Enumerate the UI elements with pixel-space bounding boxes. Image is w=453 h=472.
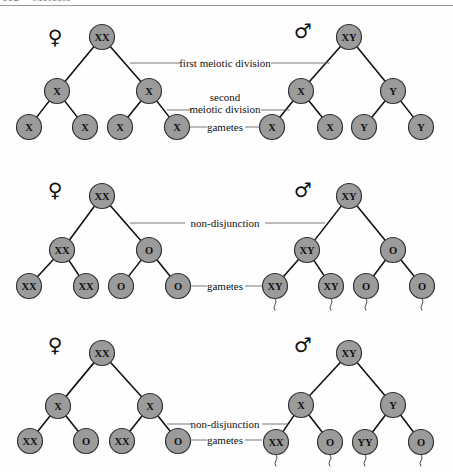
chromosome-label: Y (360, 122, 368, 133)
gamete-cell: O (410, 274, 435, 299)
chromosome-label: Y (417, 122, 425, 133)
gamete-cell: O (109, 274, 134, 299)
gamete-cell: X (260, 115, 285, 140)
lineage-line (157, 260, 170, 277)
chromosome-label: XX (94, 32, 110, 43)
lineage-line (314, 260, 324, 275)
callout-label: gametes (207, 121, 243, 133)
lineage-line (309, 362, 340, 396)
chromosome-label: X (116, 122, 124, 133)
secondary-cell: Y (381, 79, 406, 104)
gamete-cell: X (73, 115, 98, 140)
callout-gametes: gametes (190, 121, 260, 133)
chromosome-label: X (145, 86, 153, 97)
parent-cell: XY (337, 184, 362, 209)
parent-cell: XY (337, 341, 362, 366)
chromosome-label: O (174, 436, 182, 447)
sperm-tail-icon (329, 455, 331, 467)
callout-label: second (210, 91, 241, 103)
lineage-line (309, 46, 340, 81)
chromosome-label: O (389, 245, 397, 256)
sperm-tail-icon (274, 299, 276, 311)
parent-cell: XY (337, 25, 362, 50)
lineage-line (128, 101, 141, 118)
lineage-line (357, 206, 385, 241)
chromosome-label: XX (94, 348, 110, 359)
gamete-cell: O (318, 430, 343, 455)
chromosome-label: O (418, 281, 426, 292)
callout-second-meiotic-division: secondmeiotic division (167, 91, 290, 115)
lineage-line (280, 101, 293, 118)
gamete-cell: XX (110, 429, 135, 454)
lineage-line (357, 363, 385, 396)
secondary-cell: X (45, 79, 70, 104)
sperm-tail-icon (420, 455, 422, 467)
parent-cell: XX (90, 341, 115, 366)
chromosome-label: X (326, 122, 334, 133)
chromosome-label: XX (22, 436, 38, 447)
chromosome-label: Y (389, 86, 397, 97)
chromosome-label: X (297, 400, 305, 411)
secondary-cell: XY (295, 238, 320, 263)
gamete-cell: XX (17, 274, 42, 299)
gamete-cell: XX (18, 429, 43, 454)
gamete-cell: O (409, 430, 434, 455)
male-symbol-icon: ♂ (294, 19, 312, 43)
callout-label: meiotic division (189, 103, 261, 115)
female-tree: ♀XXXXXXXX (17, 25, 190, 140)
lineage-line (372, 101, 385, 118)
male-symbol-icon: ♂ (294, 333, 312, 357)
lineage-line (130, 416, 142, 431)
secondary-cell: O (137, 238, 162, 263)
male-tree: ♂XYXYXXOYYO (264, 333, 434, 467)
secondary-cell: XX (50, 238, 75, 263)
lineage-line (129, 260, 142, 276)
gamete-cell: O (74, 429, 99, 454)
chromosome-label: XY (341, 348, 357, 359)
lineage-line (357, 47, 385, 82)
secondary-cell: X (138, 394, 163, 419)
gamete-cell: O (166, 274, 191, 299)
gamete-cell: O (166, 429, 191, 454)
female-tree: ♀XXXXXXOXXO (18, 333, 191, 454)
chromosome-label: X (146, 401, 154, 412)
gamete-cell: X (108, 115, 133, 140)
chromosome-label: XX (78, 281, 94, 292)
male-symbol-icon: ♂ (294, 178, 312, 202)
callout-gametes: gametes (190, 434, 262, 446)
chromosome-label: O (117, 281, 125, 292)
lineage-line (65, 101, 78, 117)
parent-cell: XX (90, 25, 115, 50)
gamete-cell: YY (353, 430, 378, 455)
chromosome-label: XY (341, 191, 357, 202)
gamete-cell: XX (74, 274, 99, 299)
chromosome-label: X (268, 122, 276, 133)
chromosome-label: Y (389, 400, 397, 411)
sperm-tail-icon (421, 299, 423, 311)
female-symbol-icon: ♀ (48, 25, 63, 49)
lineage-line (158, 416, 170, 431)
lineage-line (65, 47, 94, 82)
lineage-line (157, 101, 170, 117)
secondary-cell: X (289, 393, 314, 418)
female-tree: ♀XXXXOXXXXOO (17, 178, 191, 299)
lineage-line (38, 416, 50, 431)
male-tree: ♂XYXYXXYY (260, 19, 434, 140)
lineage-line (37, 259, 53, 277)
callout-label: gametes (207, 434, 243, 446)
callout-label: non-disjunction (190, 418, 260, 430)
callout-non-disjunction: non-disjunction (167, 418, 288, 430)
parent-cell: XX (90, 184, 115, 209)
chromosome-label: X (54, 401, 62, 412)
gamete-cell: XY (263, 274, 288, 299)
chromosome-label: O (417, 437, 425, 448)
lineage-line (110, 46, 141, 81)
lineage-line (66, 363, 94, 397)
gamete-cell: O (354, 274, 379, 299)
callout-first-meiotic-division: first meiotic division (130, 57, 330, 69)
lineage-line (283, 259, 298, 276)
chromosome-label: X (81, 122, 89, 133)
chromosome-label: X (173, 122, 181, 133)
chromosome-label: XY (323, 281, 339, 292)
panel-normal: ♀XXXXXXXX♂XYXYXXYYfirst meiotic division… (17, 19, 434, 140)
